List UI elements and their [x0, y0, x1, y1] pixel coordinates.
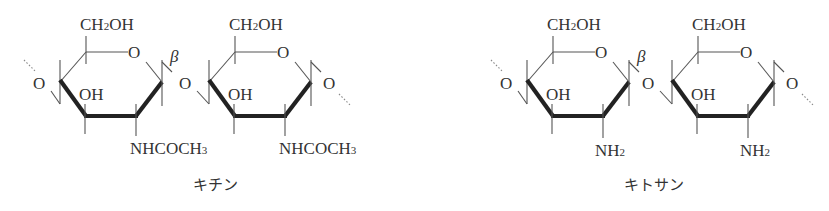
bond [774, 62, 784, 72]
chain-continuation-right [802, 94, 814, 106]
bond [51, 91, 60, 104]
hydroxyl-group: OH [691, 85, 716, 104]
chain-continuation-left [24, 60, 36, 72]
ch2oh-group: CH2OH [80, 15, 134, 34]
bond [197, 91, 209, 104]
acetamido-group: NHCOCH3 [130, 139, 208, 158]
ch2oh-group: CH2OH [692, 15, 746, 34]
hydroxyl-group: OH [79, 85, 104, 104]
chitosan-unit-1: CH2OH O OH NH2 β [527, 15, 646, 160]
chitin-structure: O CH2OH O OH NHCOCH3 β O CH2 [24, 15, 357, 193]
ring-oxygen: O [740, 43, 752, 62]
chain-continuation-right [339, 94, 351, 106]
hydroxyl-group: OH [228, 85, 253, 104]
bond [748, 82, 774, 116]
bond [60, 52, 86, 82]
bond [613, 62, 629, 82]
bond [518, 91, 527, 104]
chemical-structure-diagram: O CH2OH O OH NHCOCH3 β O CH2 [0, 0, 829, 211]
bond [527, 52, 553, 82]
bond [758, 62, 774, 82]
linkage-oxygen-right: O [323, 74, 335, 93]
bond [209, 52, 235, 82]
linkage-oxygen-left: O [33, 74, 45, 93]
bond [660, 91, 672, 104]
chitosan-structure: O CH2OH O OH NH2 β O CH2OH [491, 15, 814, 193]
chitin-unit-2: CH2OH O OH NHCOCH3 O [209, 15, 357, 158]
amino-group: NH2 [595, 141, 625, 160]
hydroxyl-group: OH [546, 85, 571, 104]
beta-label: β [636, 47, 646, 66]
ring-oxygen: O [128, 43, 140, 62]
bond [146, 62, 162, 82]
amino-group: NH2 [740, 141, 770, 160]
glycosidic-oxygen: O [179, 74, 191, 93]
glycosidic-oxygen: O [642, 74, 654, 93]
caption-chitosan: キトサン [624, 177, 684, 193]
chitosan-unit-2: CH2OH O OH NH2 O [672, 15, 814, 160]
bond [311, 62, 321, 72]
ch2oh-group: CH2OH [229, 15, 283, 34]
linkage-oxygen-left: O [500, 74, 512, 93]
chain-continuation-left [491, 60, 503, 72]
ring-oxygen: O [595, 43, 607, 62]
linkage-oxygen-right: O [786, 74, 798, 93]
ring-oxygen: O [277, 43, 289, 62]
bond [603, 82, 629, 116]
bond [672, 52, 698, 82]
acetamido-group: NHCOCH3 [279, 139, 357, 158]
bond [285, 82, 311, 116]
ch2oh-group: CH2OH [547, 15, 601, 34]
bond [136, 82, 162, 116]
beta-label: β [169, 47, 179, 66]
caption-chitin: キチン [193, 177, 238, 193]
bond [295, 62, 311, 82]
